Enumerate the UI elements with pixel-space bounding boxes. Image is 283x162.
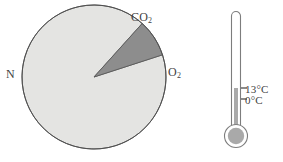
thermometer-bulb-fill — [228, 128, 244, 144]
pie-label-nitrogen: N — [6, 68, 15, 80]
thermometer-reading-lower: 0°C — [245, 95, 263, 106]
pie-chart — [22, 5, 166, 149]
figure-canvas — [0, 0, 283, 162]
thermometer — [225, 12, 248, 148]
pie-label-oxygen: O2 — [168, 66, 181, 78]
pie-label-carbon-dioxide: CO2 — [131, 11, 152, 23]
